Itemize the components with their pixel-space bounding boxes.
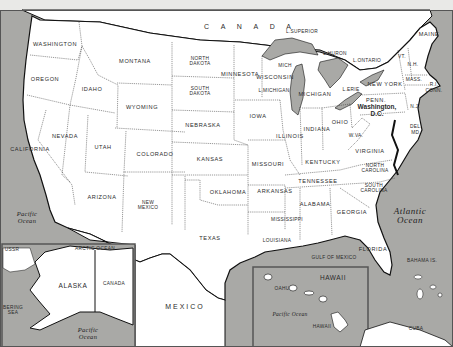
state-label: VIRGINIA xyxy=(355,149,384,155)
water-label: PacificOcean xyxy=(17,211,38,224)
state-label: COLORADO xyxy=(137,152,174,158)
state-label: WASHINGTON xyxy=(33,42,77,48)
hawaii-label: HAWAII xyxy=(320,275,346,282)
water-label: BAHAMA IS. xyxy=(407,259,437,264)
state-label: MASS. xyxy=(406,78,422,83)
water-label: GULF OF MEXICO xyxy=(311,256,356,261)
state-label: LOUISIANA xyxy=(263,239,291,244)
alaska-inset xyxy=(2,244,135,347)
state-label: KANSAS xyxy=(197,157,223,163)
state-label: TENNESSEE xyxy=(298,179,337,185)
state-label: MICHIGAN xyxy=(299,92,332,98)
state-label: NEWMEXICO xyxy=(138,201,159,211)
state-label: IOWA xyxy=(249,114,266,120)
country-label-cuba: CUBA xyxy=(409,327,424,332)
state-label: NORTHCAROLINA xyxy=(362,164,389,174)
hawaii-inset xyxy=(253,267,368,347)
state-label: SOUTHDAKOTA xyxy=(189,87,210,97)
state-label: MD. xyxy=(411,131,421,136)
state-label: IDAHO xyxy=(82,87,103,93)
state-label: OREGON xyxy=(31,77,59,83)
state-label: N.J. xyxy=(410,105,420,110)
state-label: N.H. xyxy=(408,63,419,68)
state-label: KENTUCKY xyxy=(305,160,340,166)
country-label-ussr: USSR xyxy=(5,248,20,253)
state-label: MINNESOTA xyxy=(221,72,259,78)
arctic-ocean-label: ARCTIC OCEAN xyxy=(75,247,115,252)
hawaii-island-label: HAWAII xyxy=(313,325,332,330)
country-label-canada: C A N A D A xyxy=(204,23,296,30)
state-label: INDIANA xyxy=(304,127,331,133)
state-label: MISSOURI xyxy=(252,162,284,168)
state-label: CALIFORNIA xyxy=(10,147,50,153)
state-label: ARIZONA xyxy=(87,195,116,201)
state-label: OKLAHOMA xyxy=(210,190,247,196)
state-label: CONN. xyxy=(426,89,443,94)
water-label: AtlanticOcean xyxy=(394,207,427,225)
country-label-canada-inset: CANADA xyxy=(103,282,125,287)
state-label: MONTANA xyxy=(119,59,151,65)
state-label: L.MICHIGAN xyxy=(259,89,290,94)
state-label: NEBRASKA xyxy=(185,123,220,129)
state-label: NORTHDAKOTA xyxy=(189,57,210,67)
lake-label: L.ONTARIO xyxy=(353,59,381,64)
state-label: MISSISSIPPI xyxy=(271,218,303,223)
state-label: FLORIDA xyxy=(359,247,387,253)
state-label: ARKANSAS xyxy=(257,189,292,195)
state-label: NEW YORK xyxy=(367,82,402,88)
state-label: WYOMING xyxy=(126,105,158,111)
lake-label: L.ERIE xyxy=(343,88,360,93)
lake-label: L.HURON xyxy=(323,52,347,57)
state-label: W.VA. xyxy=(349,134,363,139)
alaska-label: ALASKA xyxy=(59,283,88,290)
lake-label: L.SUPERIOR xyxy=(286,30,318,35)
state-label: GEORGIA xyxy=(337,210,367,216)
oahu-label: OAHU xyxy=(274,287,289,292)
state-label: TEXAS xyxy=(199,236,220,242)
state-label: ILLINOIS xyxy=(276,134,304,140)
state-label: VT. xyxy=(398,55,406,60)
state-label: UTAH xyxy=(94,145,111,151)
state-label: OHIO xyxy=(332,120,349,126)
state-label: ALABAMA xyxy=(300,202,331,208)
state-label: NEVADA xyxy=(52,134,78,140)
bering-sea-label: BERINGSEA xyxy=(3,306,23,316)
state-label: SOUTHCAROLINA xyxy=(361,184,388,194)
state-label: WISCONSIN xyxy=(256,75,294,81)
alaska-pacific-label: PacificOcean xyxy=(78,327,99,340)
capital-label: Washington,D.C. xyxy=(358,104,397,117)
state-label: MAINE xyxy=(419,32,440,38)
country-label-mexico: MEXICO xyxy=(165,303,205,310)
state-label: MICH xyxy=(278,64,291,69)
hawaii-pacific-label: Pacific Ocean xyxy=(272,312,307,318)
